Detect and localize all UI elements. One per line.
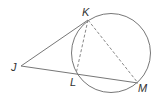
secant-jm: [21, 66, 138, 83]
tangent-jk: [21, 20, 88, 66]
circle: [72, 14, 151, 93]
chord-km: [88, 20, 138, 83]
label-k: K: [82, 7, 89, 18]
label-j: J: [11, 62, 17, 73]
chord-kl: [76, 20, 88, 74]
label-l: L: [70, 77, 76, 88]
label-m: M: [138, 83, 147, 94]
diagram: K J L M: [0, 0, 159, 98]
geometry-figure: [0, 0, 159, 98]
